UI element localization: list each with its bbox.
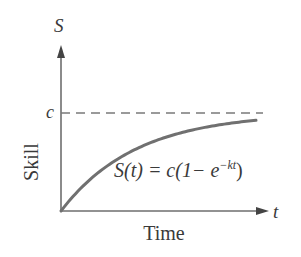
equation: S(t) = c(1− e−kt)	[114, 158, 243, 182]
y-axis-label: Skill	[20, 143, 42, 181]
skill-curve-diagram: S t c Skill Time S(t) = c(1− e−kt)	[0, 0, 301, 257]
equation-exponent: −kt	[219, 158, 236, 172]
equation-close: )	[236, 159, 243, 182]
x-axis-label: Time	[143, 222, 185, 244]
asymptote-label: c	[46, 102, 54, 122]
equation-main: S(t) = c(1− e	[114, 159, 219, 182]
x-axis-arrow-icon	[256, 207, 269, 215]
y-axis-symbol: S	[54, 15, 64, 36]
x-axis-symbol: t	[273, 201, 279, 222]
y-axis-arrow-icon	[57, 45, 65, 58]
